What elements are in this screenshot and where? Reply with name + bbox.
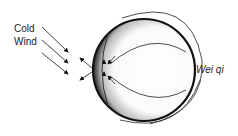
label-wind: Wind [14,36,37,47]
cold-wind-arrows [42,27,68,74]
label-wei-qi: Wei qi [196,64,224,75]
label-cold: Cold [14,23,35,34]
body-sphere [93,19,195,121]
